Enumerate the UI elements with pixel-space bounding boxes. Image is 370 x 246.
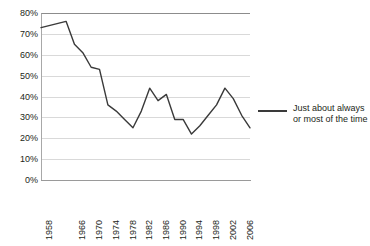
trust-in-government-line-chart: 80%70%60%50%40%30%20%10%0% 1958196619701… (0, 0, 370, 246)
x-axis-tick-label: 2006 (246, 220, 255, 240)
y-axis-tick-label: 20% (20, 134, 38, 143)
x-axis-tick-label: 1958 (45, 220, 54, 240)
legend-label: Just about always or most of the time (293, 103, 368, 125)
series-polyline (41, 21, 250, 134)
x-axis-tick-label: 1998 (212, 220, 221, 240)
legend-label-line-2: or most of the time (293, 114, 368, 124)
series-line-svg (41, 13, 250, 180)
y-axis-tick-label: 0% (25, 176, 38, 185)
y-axis-tick-label: 50% (20, 72, 38, 81)
x-axis-tick-label: 1982 (145, 220, 154, 240)
y-axis-tick-label: 30% (20, 113, 38, 122)
x-axis-tick-label: 1974 (112, 220, 121, 240)
x-axis-tick-label: 1986 (162, 220, 171, 240)
x-axis-tick-label: 2002 (229, 220, 238, 240)
legend: Just about always or most of the time (258, 103, 370, 125)
legend-line-swatch (258, 106, 287, 115)
y-axis-tick-label: 60% (20, 51, 38, 60)
y-axis-tick-label: 40% (20, 93, 38, 102)
x-axis-tick-label: 1966 (78, 220, 87, 240)
x-axis-tick-label: 1970 (95, 220, 104, 240)
x-axis-tick-label: 1978 (129, 220, 138, 240)
y-axis-tick-label: 80% (20, 9, 38, 18)
x-axis-tick-labels: 1958196619701974197819821986199019941998… (41, 182, 250, 244)
y-axis-tick-label: 10% (20, 155, 38, 164)
plot-area (41, 13, 250, 180)
y-axis-tick-label: 70% (20, 30, 38, 39)
y-axis-tick-labels: 80%70%60%50%40%30%20%10%0% (0, 0, 38, 246)
legend-label-line-1: Just about always (293, 103, 365, 113)
x-axis-tick-label: 1990 (179, 220, 188, 240)
x-axis-tick-label: 1994 (195, 220, 204, 240)
x-axis-line (41, 180, 251, 181)
